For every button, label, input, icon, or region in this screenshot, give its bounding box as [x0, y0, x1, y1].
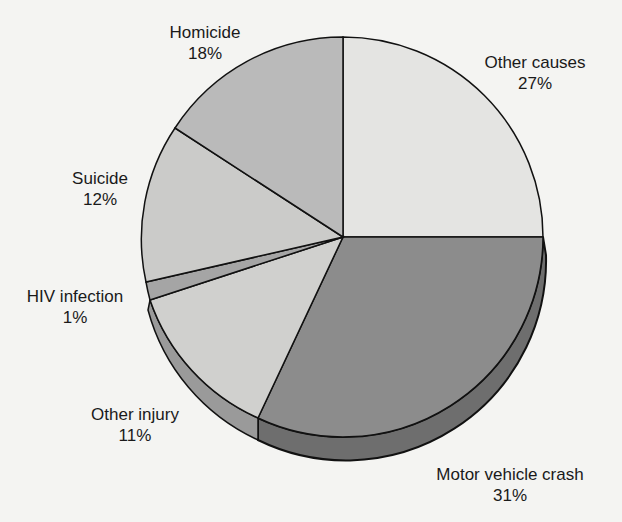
- label-other-causes: Other causes27%: [470, 52, 600, 94]
- label-hiv-infection: HIV infection1%: [5, 286, 145, 328]
- label-suicide: Suicide12%: [50, 168, 150, 210]
- label-other-injury: Other injury11%: [75, 404, 195, 446]
- label-motor-vehicle-crash: Motor vehicle crash31%: [420, 464, 600, 506]
- pie-chart: Homicide18% Other causes27% Suicide12% H…: [0, 0, 622, 522]
- label-homicide: Homicide18%: [150, 22, 260, 64]
